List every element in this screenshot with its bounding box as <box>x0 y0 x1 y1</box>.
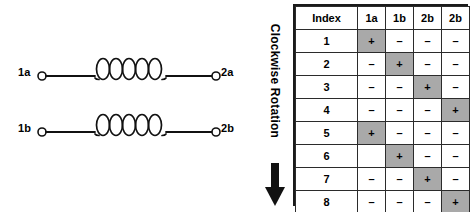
rotation-truth-table: Index 1a 1b 2b 2b 1+–––2–+––3––+–4–––+5+… <box>293 4 468 206</box>
cell-index: 8 <box>296 191 358 213</box>
column-header-2b-2: 2b <box>442 7 470 30</box>
cell-1b-row-3: – <box>386 76 414 99</box>
coil-b-right-terminal-label: 2b <box>221 121 234 135</box>
cell-index: 6 <box>296 145 358 168</box>
coil-diagram-a: 1a 2a <box>0 52 258 98</box>
cell-1b-row-6: + <box>386 145 414 168</box>
downward-arrow-icon <box>264 163 286 207</box>
coil-diagram-b: 1b 2b <box>0 108 258 154</box>
cell-1a-row-2: – <box>358 53 386 76</box>
table-row: 4–––+ <box>296 99 470 122</box>
cell-index: 3 <box>296 76 358 99</box>
table-header-row: Index 1a 1b 2b 2b <box>296 7 470 30</box>
cell-index: 4 <box>296 99 358 122</box>
cell-index: 5 <box>296 122 358 145</box>
clockwise-rotation-label: Clockwise Rotation <box>268 17 282 145</box>
table-row: 6+–– <box>296 145 470 168</box>
cell-2b-row-4: – <box>414 99 442 122</box>
column-header-index: Index <box>296 7 358 30</box>
cell-2b-row-1: – <box>414 30 442 53</box>
cell-2b-row-6: – <box>442 145 470 168</box>
column-header-2b-1: 2b <box>414 7 442 30</box>
table-row: 5+––– <box>296 122 470 145</box>
cell-2b-row-5: – <box>414 122 442 145</box>
column-header-1a: 1a <box>358 7 386 30</box>
cell-1b-row-2: + <box>386 53 414 76</box>
coil-schematic: 1a 2a 1b <box>0 0 258 212</box>
cell-index: 2 <box>296 53 358 76</box>
cell-2b-row-6: – <box>414 145 442 168</box>
cell-1b-row-4: – <box>386 99 414 122</box>
cell-1a-row-7: – <box>358 168 386 191</box>
cell-2b-row-2: – <box>414 53 442 76</box>
cell-2b-row-3: – <box>442 76 470 99</box>
cell-1b-row-8: – <box>386 191 414 213</box>
cell-2b-row-8: + <box>442 191 470 213</box>
cell-1a-row-4: – <box>358 99 386 122</box>
cell-2b-row-2: – <box>442 53 470 76</box>
cell-1b-row-5: – <box>386 122 414 145</box>
cell-2b-row-3: + <box>414 76 442 99</box>
cell-2b-row-5: – <box>442 122 470 145</box>
cell-1b-row-7: – <box>386 168 414 191</box>
table-row: 3––+– <box>296 76 470 99</box>
cell-index: 1 <box>296 30 358 53</box>
cell-1a-row-6 <box>358 145 386 168</box>
table-row: 1+––– <box>296 30 470 53</box>
table-row: 7––+– <box>296 168 470 191</box>
cell-1a-row-5: + <box>358 122 386 145</box>
coil-b-symbol <box>0 108 258 154</box>
coil-a-symbol <box>0 52 258 98</box>
cell-1a-row-8: – <box>358 191 386 213</box>
coil-a-right-terminal-label: 2a <box>221 65 233 79</box>
cell-2b-row-7: + <box>414 168 442 191</box>
clockwise-rotation-axis: Clockwise Rotation <box>258 0 292 212</box>
cell-2b-row-8: – <box>414 191 442 213</box>
column-header-1b: 1b <box>386 7 414 30</box>
cell-1a-row-1: + <box>358 30 386 53</box>
cell-1a-row-3: – <box>358 76 386 99</box>
table-row: 2–+–– <box>296 53 470 76</box>
table-row: 8–––+ <box>296 191 470 213</box>
cell-2b-row-7: – <box>442 168 470 191</box>
cell-2b-row-1: – <box>442 30 470 53</box>
cell-index: 7 <box>296 168 358 191</box>
cell-1b-row-1: – <box>386 30 414 53</box>
cell-2b-row-4: + <box>442 99 470 122</box>
